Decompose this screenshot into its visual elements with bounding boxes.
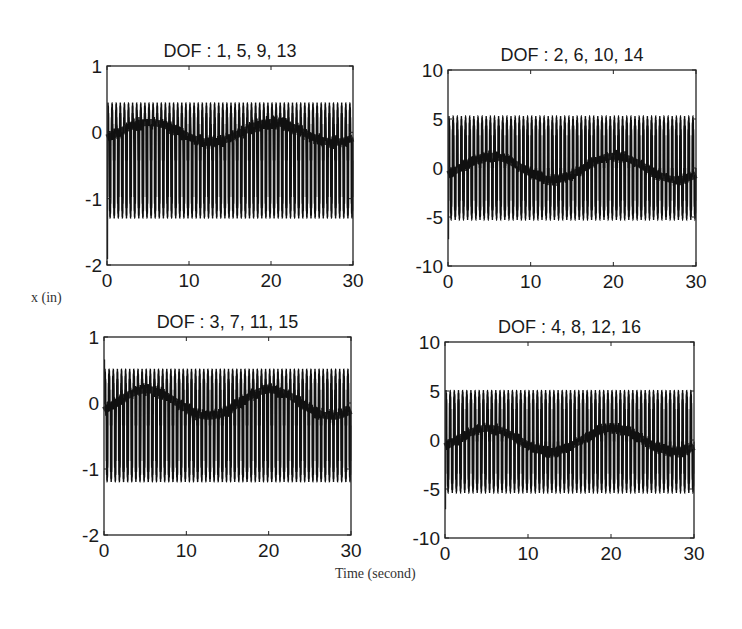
y-tick-label: 10 [419, 332, 440, 353]
x-tick-label: 30 [342, 270, 363, 291]
subplot-title: DOF : 4, 8, 12, 16 [498, 317, 641, 337]
subplot-title: DOF : 3, 7, 11, 15 [157, 312, 299, 332]
y-tick-label: 5 [432, 109, 443, 130]
figure: DOF : 1, 5, 9, 130102030-2-101DOF : 2, 6… [0, 0, 742, 629]
x-tick-label: 0 [99, 540, 110, 561]
y-tick-label: 0 [88, 393, 99, 414]
x-tick-label: 0 [443, 271, 454, 292]
y-tick-label: 5 [429, 381, 440, 402]
x-tick-label: 20 [260, 270, 281, 291]
subplots: DOF : 1, 5, 9, 130102030-2-101DOF : 2, 6… [82, 41, 706, 564]
x-tick-label: 10 [517, 543, 538, 564]
y-tick-label: -2 [85, 255, 102, 276]
x-tick-label: 20 [600, 543, 621, 564]
y-tick-label: 0 [432, 158, 443, 179]
subplot-2: DOF : 2, 6, 10, 140102030-10-50510 [416, 45, 707, 292]
subplot-3: DOF : 3, 7, 11, 150102030-2-101 [82, 312, 361, 561]
subplot-4: DOF : 4, 8, 12, 160102030-10-50510 [413, 317, 705, 564]
subplot-title: DOF : 2, 6, 10, 14 [500, 45, 643, 65]
x-tick-label: 10 [520, 271, 541, 292]
y-tick-label: 10 [422, 60, 443, 81]
subplot-title: DOF : 1, 5, 9, 13 [163, 41, 296, 61]
y-tick-label: 1 [88, 327, 99, 348]
y-tick-label: -5 [423, 479, 440, 500]
y-tick-label: -5 [426, 207, 443, 228]
subplot-1: DOF : 1, 5, 9, 130102030-2-101 [85, 41, 363, 291]
x-tick-label: 30 [340, 540, 361, 561]
x-tick-label: 30 [685, 271, 706, 292]
y-tick-label: 0 [429, 430, 440, 451]
y-tick-label: -1 [85, 189, 102, 210]
x-tick-label: 10 [178, 270, 199, 291]
signal-line [104, 360, 351, 482]
y-tick-label: -10 [416, 256, 443, 277]
x-tick-label: 20 [603, 271, 624, 292]
y-tick-label: -10 [413, 528, 440, 549]
y-axis-label: x (in) [31, 290, 62, 306]
y-tick-label: 1 [91, 56, 102, 77]
y-tick-label: -2 [82, 525, 99, 546]
x-tick-label: 30 [683, 543, 704, 564]
x-tick-label: 20 [258, 540, 279, 561]
x-tick-label: 10 [176, 540, 197, 561]
y-tick-label: -1 [82, 459, 99, 480]
y-tick-label: 0 [91, 122, 102, 143]
x-tick-label: 0 [102, 270, 113, 291]
x-tick-label: 0 [440, 543, 451, 564]
x-axis-label: Time (second) [335, 566, 416, 582]
